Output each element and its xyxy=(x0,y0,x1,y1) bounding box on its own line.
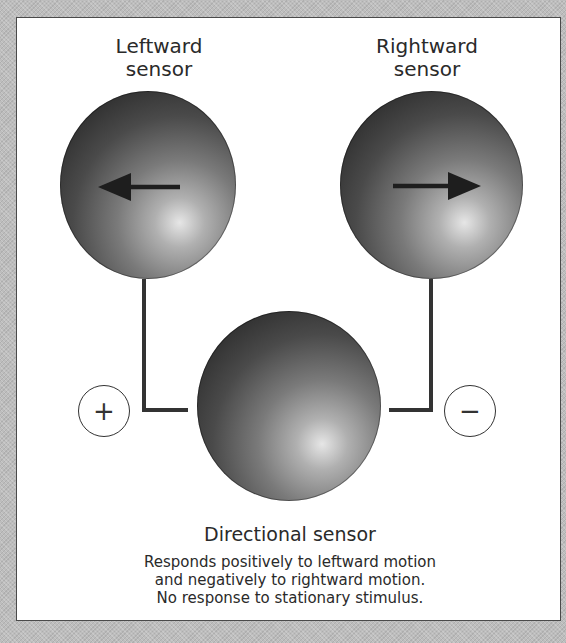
connector-lines xyxy=(0,0,566,643)
negative-sign: − xyxy=(459,398,481,424)
description-line1: Responds positively to leftward motion xyxy=(90,553,490,571)
positive-sign-icon: + xyxy=(78,385,130,437)
positive-sign: + xyxy=(93,398,115,424)
left-connector xyxy=(144,279,188,410)
right-arrow-icon xyxy=(393,172,481,200)
description-line3: No response to stationary stimulus. xyxy=(90,589,490,607)
negative-sign-icon: − xyxy=(444,385,496,437)
description-line2: and negatively to rightward motion. xyxy=(90,571,490,589)
directional-sensor-description: Responds positively to leftward motion a… xyxy=(90,553,490,607)
directional-sensor-title: Directional sensor xyxy=(140,523,440,546)
left-arrow-icon xyxy=(98,173,180,201)
right-connector xyxy=(389,279,431,410)
